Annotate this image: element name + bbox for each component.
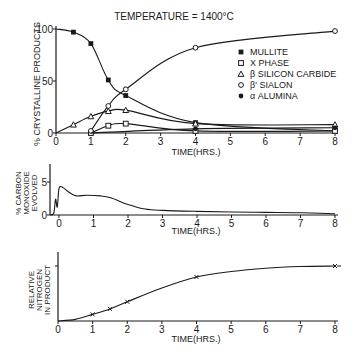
x-tick-label: 0 xyxy=(55,324,61,335)
x-tick-label: 4 xyxy=(193,136,199,147)
legend-label: α ALUMINA xyxy=(250,91,298,101)
carbon-monoxide-chart: 01234567805 TIME(HRS.) % CARBON MONOXIDE… xyxy=(14,164,338,236)
data-point xyxy=(333,29,338,34)
x-tick-label: 2 xyxy=(124,324,130,335)
data-point xyxy=(106,78,111,83)
bot-series xyxy=(58,264,337,321)
mid-x-axis-label: TIME(HRS.) xyxy=(172,226,221,236)
x-tick-label: 8 xyxy=(332,136,338,147)
bot-x-axis-label: TIME(HRS.) xyxy=(172,334,221,344)
x-tick-label: 0 xyxy=(53,136,59,147)
legend-label: X PHASE xyxy=(250,58,289,68)
x-tick-label: 6 xyxy=(263,218,269,229)
x-tick-label: 3 xyxy=(159,324,165,335)
legend-marker xyxy=(238,71,244,76)
y-tick-label: 50 xyxy=(42,76,54,87)
legend-marker xyxy=(239,61,244,66)
x-tick-label: 1 xyxy=(90,324,96,335)
legend-label: β SILICON CARBIDE xyxy=(250,69,336,79)
x-tick-label: 2 xyxy=(125,218,131,229)
data-point xyxy=(71,30,76,35)
x-tick-label: 1 xyxy=(91,218,97,229)
x-tick-label: 6 xyxy=(263,324,269,335)
legend-item: MULLITE xyxy=(239,47,288,57)
x-tick-label: 7 xyxy=(298,218,304,229)
legend-label: MULLITE xyxy=(250,47,288,57)
x-tick-label: 8 xyxy=(332,218,338,229)
x-tick-label: 5 xyxy=(228,136,234,147)
data-point xyxy=(193,126,198,131)
data-point xyxy=(71,122,77,127)
chart-title: TEMPERATURE = 1400°C xyxy=(114,11,234,22)
legend-marker xyxy=(239,50,244,55)
y-tick-label: 0 xyxy=(47,128,53,139)
mid-axes: 01234567805 xyxy=(41,164,338,229)
series-mullite xyxy=(56,29,337,133)
x-tick-label: 0 xyxy=(56,218,62,229)
y-tick-label: 5 xyxy=(41,177,47,188)
x-tick-label: 5 xyxy=(229,218,235,229)
bot-axes: 012345678 xyxy=(55,252,341,335)
nitrogen-chart: 012345678 TIME(HRS.) RELATIVE NITROGEN I… xyxy=(27,252,341,344)
y-tick-label: 0 xyxy=(41,210,47,221)
x-tick-label: 3 xyxy=(158,136,164,147)
legend-marker xyxy=(239,94,244,99)
crystalline-products-chart: TEMPERATURE = 1400°C 012345678050100 TIM… xyxy=(32,11,338,157)
bot-y-axis-label-line3: IN PRODUCT xyxy=(43,265,52,315)
data-point xyxy=(106,104,111,109)
top-x-axis-label: TIME(HRS.) xyxy=(172,147,221,157)
data-point xyxy=(193,45,198,50)
data-point xyxy=(88,41,93,46)
legend-item: α ALUMINA xyxy=(239,91,298,101)
top-y-axis-label: % CRYSTALLINE PRODUCTS xyxy=(32,22,42,146)
mid-series xyxy=(50,186,335,215)
mid-y-axis-label-line3: EVOLVED xyxy=(30,174,39,211)
top-series xyxy=(56,29,338,136)
series-co-evolved xyxy=(50,186,335,215)
x-tick-label: 8 xyxy=(332,324,338,335)
x-tick-label: 7 xyxy=(297,136,303,147)
data-point xyxy=(333,125,338,130)
x-tick-label: 3 xyxy=(160,218,166,229)
x-tick-label: 5 xyxy=(228,324,234,335)
x-tick-label: 1 xyxy=(88,136,94,147)
data-point xyxy=(123,121,128,126)
series--sialon xyxy=(88,29,337,134)
legend: MULLITEX PHASEβ SILICON CARBIDEβ' SIALON… xyxy=(238,47,336,101)
data-point xyxy=(106,123,111,128)
legend-item: β SILICON CARBIDE xyxy=(238,69,336,79)
series-relative-nitrogen xyxy=(58,266,335,321)
data-point xyxy=(123,87,128,92)
x-tick-label: 7 xyxy=(298,324,304,335)
x-tick-label: 2 xyxy=(123,136,129,147)
x-tick-label: 6 xyxy=(262,136,268,147)
legend-label: β' SIALON xyxy=(250,80,292,90)
legend-item: X PHASE xyxy=(239,58,289,68)
legend-marker xyxy=(239,83,244,88)
legend-item: β' SIALON xyxy=(239,80,293,90)
figure: TEMPERATURE = 1400°C 012345678050100 TIM… xyxy=(0,0,352,352)
data-point xyxy=(123,93,128,98)
